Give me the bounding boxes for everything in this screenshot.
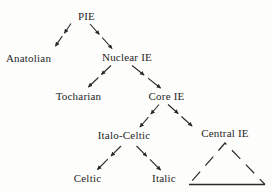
edge-pie-to-anatolian bbox=[56, 24, 72, 47]
node-label-central-ie: Central IE bbox=[201, 127, 249, 139]
node-label-anatolian: Anatolian bbox=[6, 52, 51, 64]
edge-dash-arrow bbox=[132, 66, 144, 76]
edge-dash-arrow bbox=[151, 105, 159, 115]
edge-dash-arrow bbox=[98, 159, 108, 169]
edge-dash-arrow bbox=[89, 78, 99, 88]
node-label-tocharian: Tocharian bbox=[56, 90, 102, 102]
edge-dash-arrow bbox=[181, 117, 192, 127]
node-label-italo-celtic: Italo-Celtic bbox=[98, 129, 151, 141]
edge-nuclear-ie-to-core-ie bbox=[132, 66, 161, 89]
edge-dash-arrow bbox=[148, 78, 161, 88]
edge-dash-arrow bbox=[140, 117, 148, 127]
edge-dash-arrow bbox=[150, 159, 161, 170]
edge-core-ie-to-italo-celtic bbox=[140, 105, 159, 128]
edge-dash-arrow bbox=[56, 36, 63, 46]
edge-dash-arrow bbox=[102, 38, 112, 49]
edge-dash-arrow bbox=[111, 146, 121, 156]
edge-dash-arrow bbox=[90, 24, 99, 34]
edge-nuclear-ie-to-tocharian bbox=[89, 66, 112, 88]
node-label-pie: PIE bbox=[78, 10, 95, 22]
edge-core-ie-to-central-ie bbox=[168, 105, 192, 127]
edge-dash-arrow bbox=[65, 24, 72, 34]
node-label-italic: Italic bbox=[152, 172, 176, 184]
edge-pie-to-nuclear-ie bbox=[90, 24, 112, 49]
diagram-canvas: PIEAnatolianNuclear IETocharianCore IEIt… bbox=[0, 0, 271, 193]
triangle-dashed-sides bbox=[189, 143, 265, 185]
edge-dash-arrow bbox=[137, 146, 147, 156]
node-label-core-ie: Core IE bbox=[149, 90, 185, 102]
node-label-nuclear-ie: Nuclear IE bbox=[102, 51, 152, 63]
node-label-celtic: Celtic bbox=[74, 172, 101, 184]
edge-dash-arrow bbox=[102, 66, 112, 75]
edge-italo-celtic-to-italic bbox=[137, 146, 161, 170]
edge-italo-celtic-to-celtic bbox=[98, 146, 122, 170]
edge-dash-arrow bbox=[168, 105, 178, 114]
central-ie-descendants-triangle bbox=[189, 143, 265, 185]
pie-family-tree-diagram: PIEAnatolianNuclear IETocharianCore IEIt… bbox=[0, 0, 271, 193]
